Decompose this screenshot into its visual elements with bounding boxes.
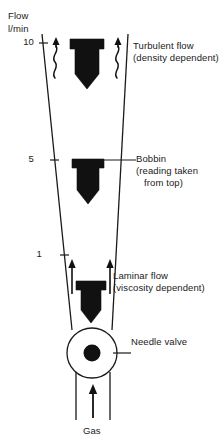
axis-title-line2: l/min <box>8 23 29 34</box>
label-gas: Gas <box>83 425 101 437</box>
axis-title: Flowl/min <box>8 10 29 35</box>
tube-wall-left <box>42 34 72 330</box>
turbulent-arrow-left-squiggle <box>54 46 57 78</box>
label-laminar-line2: (viscosity dependent) <box>113 282 205 294</box>
bobbin-bottom-shape <box>76 281 106 323</box>
turbulent-arrow-right-squiggle <box>116 46 119 78</box>
needle-valve-dot <box>84 345 101 362</box>
flowmeter-svg <box>0 0 224 445</box>
label-needle-valve: Needle valve <box>131 336 187 348</box>
label-laminar-flow: Laminar flow(viscosity dependent) <box>113 270 205 294</box>
label-turbulent-line1: Turbulent flow <box>133 40 194 51</box>
label-laminar-line1: Laminar flow <box>113 270 168 281</box>
turbulent-arrow-right-head <box>115 37 122 45</box>
bobbin-bottom <box>76 281 106 323</box>
bobbin-top-shape <box>70 39 104 89</box>
laminar-arrow-right-head <box>106 259 113 268</box>
label-bobbin-line2: (reading taken <box>136 165 198 177</box>
bobbin-top <box>70 39 104 89</box>
needle-valve <box>67 328 131 378</box>
bobbin-middle-shape <box>72 159 104 204</box>
scale-label-10: 10 <box>14 36 34 48</box>
label-bobbin: Bobbin(reading takenfrom top) <box>136 153 198 189</box>
label-turbulent-flow: Turbulent flow(density dependent) <box>133 40 219 64</box>
scale-label-1: 1 <box>22 248 42 260</box>
gas-arrow-head <box>89 384 97 394</box>
bobbin-middle <box>72 159 104 204</box>
laminar-arrow-left-head <box>68 259 75 268</box>
turbulent-arrow-left-head <box>53 37 60 45</box>
scale-label-5: 5 <box>14 153 34 165</box>
label-bobbin-line3: from top) <box>136 177 198 189</box>
label-bobbin-line1: Bobbin <box>136 153 166 164</box>
label-turbulent-line2: (density dependent) <box>133 52 219 64</box>
axis-title-line1: Flow <box>8 10 28 21</box>
gas-inlet-pipe <box>76 372 110 420</box>
flowmeter-diagram: Flowl/min 10 5 1 Turbulent flow(density … <box>0 0 224 445</box>
